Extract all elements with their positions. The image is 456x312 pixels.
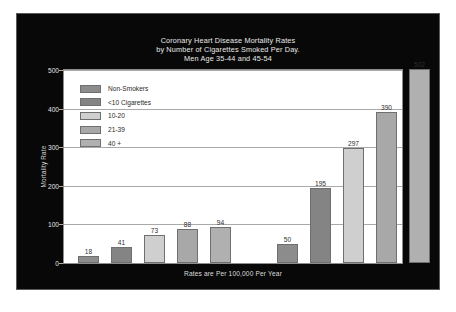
y-axis-tick-label: 200	[48, 182, 59, 189]
bar	[310, 188, 331, 263]
y-axis-tick-mark	[59, 147, 63, 148]
bar-value-label: 50	[284, 236, 291, 243]
bar-value-label: 73	[151, 227, 158, 234]
chart-footnote: Rates are Per 100,000 Per Year	[63, 270, 403, 277]
gridline	[64, 70, 402, 71]
legend-swatch	[80, 126, 101, 134]
chart-title-line-2: by Number of Cigarettes Smoked Per Day.	[17, 45, 439, 54]
legend-label: 21-39	[108, 126, 125, 133]
chart-legend: Non-Smokers<10 Cigarettes10-2021-3940 +	[80, 82, 188, 150]
bar-value-label: 94	[217, 219, 224, 226]
bar	[78, 256, 99, 263]
bar-value-label: 390	[381, 104, 392, 111]
y-axis-tick-label: 300	[48, 144, 59, 151]
bar-value-label: 41	[118, 239, 125, 246]
legend-item: 40 +	[80, 136, 188, 150]
bar-value-label: 195	[315, 180, 326, 187]
legend-item: 10-20	[80, 109, 188, 123]
legend-label: Non-Smokers	[108, 85, 148, 92]
bar	[343, 148, 364, 263]
legend-swatch	[80, 139, 101, 147]
bar	[277, 244, 298, 263]
y-axis-tick-label: 500	[48, 67, 59, 74]
legend-item: Non-Smokers	[80, 82, 188, 96]
bar	[144, 235, 165, 263]
y-axis-tick-mark	[59, 263, 63, 264]
y-axis-title: Mortality Rate	[38, 69, 48, 264]
legend-swatch	[80, 112, 101, 120]
y-axis-tick-label: 100	[48, 221, 59, 228]
legend-swatch	[80, 98, 101, 106]
legend-item: 21-39	[80, 123, 188, 137]
bar-value-label: 18	[85, 248, 92, 255]
bar-value-label: 88	[184, 221, 191, 228]
legend-label: 10-20	[108, 112, 125, 119]
bar-value-label: 502	[414, 61, 425, 68]
bar	[210, 227, 231, 263]
legend-label: <10 Cigarettes	[108, 99, 151, 106]
y-axis-tick-label: 400	[48, 105, 59, 112]
bar	[111, 247, 132, 263]
legend-swatch	[80, 85, 101, 93]
legend-item: <10 Cigarettes	[80, 96, 188, 110]
chart-panel: Coronary Heart Disease Mortality Rates b…	[16, 13, 440, 290]
chart-title-line-1: Coronary Heart Disease Mortality Rates	[17, 36, 439, 45]
y-axis-tick-mark	[59, 224, 63, 225]
legend-label: 40 +	[108, 140, 121, 147]
bar	[177, 229, 198, 263]
bar-value-label: 297	[348, 140, 359, 147]
y-axis-tick-mark	[59, 109, 63, 110]
y-axis-tick-mark	[59, 186, 63, 187]
chart-title: Coronary Heart Disease Mortality Rates b…	[17, 36, 439, 64]
y-axis-tick-mark	[59, 70, 63, 71]
bar	[409, 69, 430, 263]
chart-title-line-3: Men Age 35-44 and 45-54	[17, 54, 439, 63]
y-axis-title-text: Mortality Rate	[40, 145, 47, 187]
bar	[376, 112, 397, 263]
